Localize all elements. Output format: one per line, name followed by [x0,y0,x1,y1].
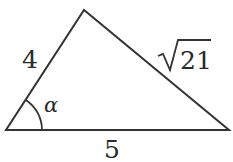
radicand: 21 [180,46,212,75]
side-label-base: 5 [104,135,120,162]
side-label-left: 4 [22,45,38,74]
angle-arc [26,100,42,130]
triangle-diagram: 4 α 5 21 [0,0,233,162]
angle-label-alpha: α [44,93,58,117]
side-label-right: 21 [158,40,212,75]
